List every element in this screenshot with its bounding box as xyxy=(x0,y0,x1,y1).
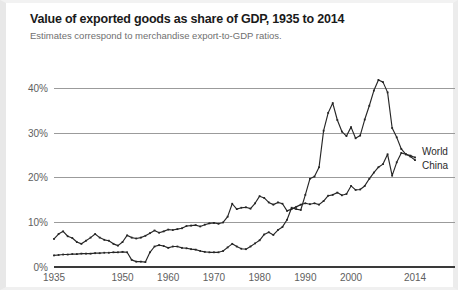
series-datapoint-china xyxy=(323,130,325,132)
chart-card: Value of exported goods as share of GDP,… xyxy=(0,0,458,290)
series-datapoint-china xyxy=(391,127,393,129)
series-datapoint-world xyxy=(318,204,320,206)
series-datapoint-world xyxy=(199,226,201,228)
series-datapoint-china xyxy=(53,255,55,257)
series-datapoint-china xyxy=(172,246,174,248)
series-datapoint-world xyxy=(314,202,316,204)
series-datapoint-world xyxy=(195,224,197,226)
x-axis-tick-label: 2014 xyxy=(404,272,427,283)
y-axis-tick-label: 20% xyxy=(28,172,48,183)
series-datapoint-world xyxy=(227,216,229,218)
x-axis-tick-label: 1980 xyxy=(249,272,272,283)
series-datapoint-world xyxy=(176,228,178,230)
series-datapoint-china xyxy=(103,252,105,254)
series-label-china: China xyxy=(422,160,449,171)
series-datapoint-china xyxy=(108,252,110,254)
series-datapoint-world xyxy=(359,189,361,191)
series-datapoint-china xyxy=(231,243,233,245)
series-line-china xyxy=(54,80,415,262)
series-datapoint-china xyxy=(195,249,197,251)
series-datapoint-china xyxy=(341,131,343,133)
series-datapoint-world xyxy=(62,230,64,232)
series-datapoint-world xyxy=(158,232,160,234)
series-datapoint-world xyxy=(122,241,124,243)
series-datapoint-world xyxy=(268,202,270,204)
series-datapoint-world xyxy=(254,202,256,204)
series-datapoint-china xyxy=(135,261,137,263)
series-datapoint-china xyxy=(94,252,96,254)
series-datapoint-world xyxy=(341,194,343,196)
series-datapoint-china xyxy=(396,136,398,138)
x-axis-tick-label: 1990 xyxy=(294,272,317,283)
series-datapoint-world xyxy=(126,234,128,236)
series-datapoint-china xyxy=(359,135,361,137)
series-datapoint-china xyxy=(71,253,73,255)
series-datapoint-world xyxy=(368,178,370,180)
series-datapoint-china xyxy=(154,246,156,248)
series-datapoint-world xyxy=(286,210,288,212)
series-datapoint-china xyxy=(236,246,238,248)
series-datapoint-world xyxy=(309,203,311,205)
series-datapoint-world xyxy=(172,229,174,231)
series-datapoint-china xyxy=(85,253,87,255)
series-datapoint-china xyxy=(387,91,389,93)
series-datapoint-world xyxy=(144,235,146,237)
series-datapoint-world xyxy=(272,204,274,206)
series-datapoint-world xyxy=(186,225,188,227)
series-datapoint-world xyxy=(149,232,151,234)
series-datapoint-china xyxy=(245,248,247,250)
x-axis-tick-label: 1935 xyxy=(43,272,66,283)
series-datapoint-world xyxy=(350,185,352,187)
series-datapoint-china xyxy=(140,261,142,263)
series-datapoint-china xyxy=(282,226,284,228)
series-datapoint-world xyxy=(355,189,357,191)
series-datapoint-world xyxy=(414,157,416,159)
series-datapoint-china xyxy=(58,254,60,256)
series-datapoint-world xyxy=(108,240,110,242)
series-datapoint-world xyxy=(378,166,380,168)
series-datapoint-world xyxy=(236,208,238,210)
series-datapoint-china xyxy=(176,246,178,248)
series-datapoint-world xyxy=(327,195,329,197)
series-datapoint-world xyxy=(67,235,69,237)
y-axis-tick-label: 0% xyxy=(34,262,49,273)
series-datapoint-world xyxy=(113,243,115,245)
series-datapoint-world xyxy=(208,222,210,224)
series-datapoint-world xyxy=(346,193,348,195)
series-datapoint-china xyxy=(204,251,206,253)
x-axis-tick-label: 1950 xyxy=(111,272,134,283)
series-labels-group: WorldChina xyxy=(422,146,449,171)
series-datapoint-china xyxy=(62,254,64,256)
series-datapoint-china xyxy=(405,153,407,155)
series-datapoint-china xyxy=(250,246,252,248)
series-datapoint-china xyxy=(314,176,316,178)
series-datapoint-china xyxy=(286,219,288,221)
series-datapoint-china xyxy=(318,166,320,168)
y-axis-tick-labels: 0%10%20%30%40% xyxy=(28,83,48,272)
series-datapoint-world xyxy=(250,208,252,210)
series-datapoint-world xyxy=(135,238,137,240)
series-datapoint-china xyxy=(259,239,261,241)
series-datapoint-china xyxy=(67,254,69,256)
series-datapoint-world xyxy=(373,172,375,174)
series-datapoint-world xyxy=(204,224,206,226)
series-datapoint-china xyxy=(272,234,274,236)
series-datapoint-china xyxy=(373,90,375,92)
series-datapoint-world xyxy=(154,230,156,232)
series-datapoint-world xyxy=(181,227,183,229)
series-datapoint-china xyxy=(167,247,169,249)
series-datapoint-china xyxy=(304,194,306,196)
series-datapoint-china xyxy=(277,229,279,231)
series-datapoint-world xyxy=(387,153,389,155)
series-datapoint-china xyxy=(208,251,210,253)
series-datapoint-china xyxy=(346,135,348,137)
series-datapoint-china xyxy=(263,234,265,236)
series-datapoint-china xyxy=(222,250,224,252)
series-datapoint-world xyxy=(90,237,92,239)
series-datapoint-china xyxy=(144,261,146,263)
series-datapoint-world xyxy=(300,204,302,206)
series-datapoint-world xyxy=(240,207,242,209)
series-datapoint-china xyxy=(378,79,380,81)
series-datapoint-china xyxy=(126,251,128,253)
series-datapoint-world xyxy=(332,194,334,196)
